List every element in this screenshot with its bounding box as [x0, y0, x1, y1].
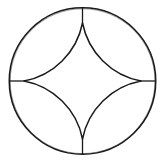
figure-container: Hatched circular rosette A freehand circ… [0, 0, 164, 160]
rosette-diagram [0, 0, 164, 160]
